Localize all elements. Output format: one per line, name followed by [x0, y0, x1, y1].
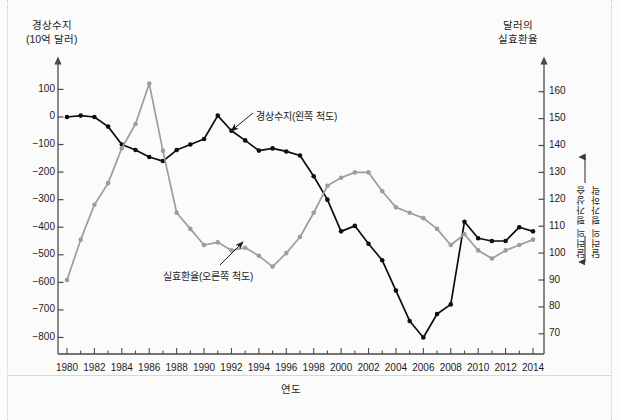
- series-data-point: [243, 245, 248, 250]
- series-data-point: [311, 174, 316, 179]
- series-data-point: [407, 319, 412, 324]
- series-data-point: [65, 115, 70, 120]
- series-data-point: [161, 149, 166, 154]
- series-data-point: [284, 251, 289, 256]
- series-data-point: [462, 219, 467, 224]
- series-data-point: [490, 239, 495, 244]
- series-data-point: [78, 237, 83, 242]
- series-data-point: [215, 240, 220, 245]
- series-data-point: [421, 335, 426, 340]
- series-data-point: [92, 115, 97, 120]
- series-data-point: [380, 258, 385, 263]
- left-axis-tick-label: −200: [10, 166, 55, 177]
- series-data-point: [421, 216, 426, 221]
- series-data-point: [257, 254, 262, 259]
- right-axis-tick-label: 90: [549, 274, 589, 285]
- series-data-point: [339, 175, 344, 180]
- chart-figure: 경상수지 (10억 달러) 달러의 실효환율 연도 경상수지(왼쪽 척도) 실효…: [0, 0, 619, 420]
- series-data-point: [490, 256, 495, 261]
- x-axis-tick-label: 2014: [513, 362, 553, 373]
- series-data-point: [531, 237, 536, 242]
- series-data-point: [215, 113, 220, 118]
- annotation-arrows: [220, 113, 585, 265]
- series-data-point: [133, 122, 138, 127]
- right-axis-tick-label: 160: [549, 85, 589, 96]
- series-data-point: [270, 264, 275, 269]
- series-data-point: [503, 239, 508, 244]
- series-data-point: [174, 148, 179, 153]
- right-axis-tick-label: 120: [549, 193, 589, 204]
- series-data-point: [531, 229, 536, 234]
- series-data-point: [448, 243, 453, 248]
- left-axis-tick-label: 100: [10, 83, 55, 94]
- right-axis-tick-label: 140: [549, 139, 589, 150]
- series-data-point: [311, 210, 316, 215]
- series-data-point: [188, 142, 193, 147]
- left-axis-tick-label: −300: [10, 193, 55, 204]
- series-data-point: [394, 205, 399, 210]
- series-data-point: [92, 202, 97, 207]
- chart-plot-area: [0, 0, 619, 420]
- series-data-point: [325, 197, 330, 202]
- series-data-point: [339, 229, 344, 234]
- left-axis-tick-label: −600: [10, 276, 55, 287]
- left-axis-tick-label: −100: [10, 138, 55, 149]
- series-data-point: [476, 248, 481, 253]
- series-data-point: [298, 235, 303, 240]
- right-axis-tick-label: 110: [549, 220, 589, 231]
- right-axis-tick-label: 130: [549, 166, 589, 177]
- series-data-point: [353, 224, 358, 229]
- series-data-point: [174, 210, 179, 215]
- series-data-point: [147, 155, 152, 160]
- series-layer: [65, 81, 536, 339]
- series-data-point: [517, 225, 522, 230]
- series-data-point: [65, 278, 70, 283]
- series-data-point: [366, 241, 371, 246]
- series-data-point: [448, 302, 453, 307]
- right-axis-tick-label: 70: [549, 327, 589, 338]
- series-data-point: [106, 181, 111, 186]
- left-axis-tick-label: −800: [10, 331, 55, 342]
- series-data-point: [243, 138, 248, 143]
- series-data-point: [106, 124, 111, 129]
- right-axis-tick-label: 150: [549, 112, 589, 123]
- axes-layer: [54, 57, 547, 355]
- series-data-point: [353, 170, 358, 175]
- series-data-point: [257, 148, 262, 153]
- right-axis-tick-label: 100: [549, 247, 589, 258]
- series-data-point: [476, 236, 481, 241]
- annotation-arrow-current-account: [231, 113, 253, 131]
- series-data-point: [503, 248, 508, 253]
- series-data-point: [284, 149, 289, 154]
- series-data-point: [147, 81, 152, 86]
- series-data-point: [462, 232, 467, 237]
- series-data-point: [133, 148, 138, 153]
- left-axis-tick-label: −400: [10, 221, 55, 232]
- series-data-point: [394, 288, 399, 293]
- series-data-point: [366, 170, 371, 175]
- series-data-point: [120, 146, 125, 151]
- left-axis-tick-label: −500: [10, 248, 55, 259]
- series-data-point: [517, 243, 522, 248]
- series-data-point: [202, 137, 207, 142]
- series-data-point: [380, 189, 385, 194]
- left-axis-tick-label: −700: [10, 303, 55, 314]
- series-data-point: [270, 146, 275, 151]
- series-data-point: [435, 312, 440, 317]
- series-data-point: [298, 153, 303, 158]
- series-data-point: [188, 227, 193, 232]
- series-line: [67, 84, 533, 280]
- series-data-point: [78, 113, 83, 118]
- series-data-point: [325, 184, 330, 189]
- right-axis-tick-label: 80: [549, 300, 589, 311]
- left-axis-tick-label: 0: [10, 110, 55, 121]
- series-data-point: [407, 210, 412, 215]
- series-data-point: [202, 243, 207, 248]
- series-data-point: [435, 227, 440, 232]
